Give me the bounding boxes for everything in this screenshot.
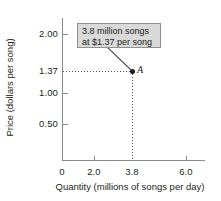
chart-canvas: 2.00 1.37 1.00 0.50 0 2.0 3.8 6.0 Price … bbox=[0, 0, 221, 201]
x-axis-title: Quantity (millions of songs per day) bbox=[40, 181, 220, 192]
x-tick-label-6.0: 6.0 bbox=[166, 166, 206, 177]
y-tick-mark-2.00 bbox=[63, 34, 68, 35]
y-axis-line bbox=[62, 18, 63, 160]
x-axis-line bbox=[62, 160, 205, 161]
guide-line-vertical bbox=[132, 71, 133, 160]
x-tick-label-3.8: 3.8 bbox=[112, 166, 152, 177]
x-tick-mark-2.0 bbox=[94, 156, 95, 161]
y-tick-mark-0.50 bbox=[63, 124, 68, 125]
callout-line-2: at $1.37 per song bbox=[82, 37, 156, 48]
x-tick-label-2.0: 2.0 bbox=[74, 166, 114, 177]
x-tick-mark-6.0 bbox=[186, 156, 187, 161]
data-point-a bbox=[130, 69, 136, 75]
callout-line-1: 3.8 million songs bbox=[82, 26, 156, 37]
y-axis-title: Price (dollars per song) bbox=[4, 23, 15, 153]
callout-box: 3.8 million songs at $1.37 per song bbox=[77, 23, 161, 48]
y-tick-mark-1.00 bbox=[63, 93, 68, 94]
data-point-a-label: A bbox=[137, 64, 143, 75]
